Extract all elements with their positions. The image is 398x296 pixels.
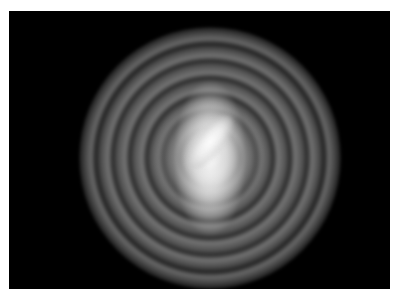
image-frame [9,11,390,289]
